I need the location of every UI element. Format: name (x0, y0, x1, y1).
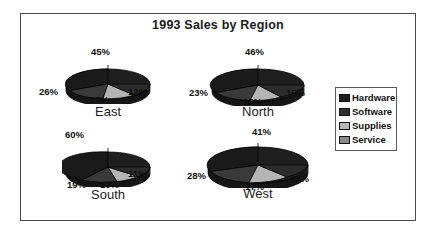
pie-slice-label-east-left: 26% (39, 86, 58, 97)
pie-region-label-east: East (43, 104, 173, 119)
legend-label-hardware: Hardware (352, 93, 395, 103)
pie-panel-north: 46% 23% 15% 15% North (193, 46, 323, 124)
pie-slice-label-west-top: 41% (252, 126, 271, 137)
legend-item-service[interactable]: Service (339, 133, 393, 147)
chart-legend: Hardware Software Supplies Service (335, 87, 397, 151)
pie-slice-label-south-top: 60% (65, 129, 84, 140)
pie-slice-label-north-left: 23% (189, 87, 208, 98)
pie-region-label-south: South (43, 187, 173, 202)
pie-slice-label-north-top: 46% (245, 46, 264, 57)
pie-slice-label-west-right: 14% (290, 173, 309, 184)
legend-item-supplies[interactable]: Supplies (339, 119, 393, 133)
chart-frame: 1993 Sales by Region (20, 13, 416, 221)
pie-panel-east: 45% 26% 17% 12% East (43, 46, 173, 124)
pie-slice-label-west-left: 28% (187, 170, 206, 181)
chart-title: 1993 Sales by Region (21, 18, 415, 32)
legend-item-hardware[interactable]: Hardware (339, 91, 393, 105)
pie-slice-label-east-top: 45% (91, 46, 110, 57)
pie-slice-label-north-right: 15% (286, 87, 305, 98)
pie-slice-label-east-right: 12% (128, 86, 147, 97)
legend-label-supplies: Supplies (352, 121, 392, 131)
legend-label-software: Software (352, 107, 392, 117)
legend-swatch-supplies (339, 122, 350, 130)
legend-label-service: Service (352, 135, 386, 145)
legend-swatch-hardware (339, 94, 350, 102)
pie-slice-label-south-right: 11% (128, 168, 147, 179)
pie-panel-south: 60% 19% 10% 11% South (43, 129, 173, 207)
legend-swatch-service (339, 136, 350, 144)
pie-region-label-west: West (193, 186, 323, 201)
pie-panel-west: 41% 28% 17% 14% West (193, 126, 323, 204)
pie-region-label-north: North (193, 104, 323, 119)
legend-item-software[interactable]: Software (339, 105, 393, 119)
legend-swatch-software (339, 108, 350, 116)
